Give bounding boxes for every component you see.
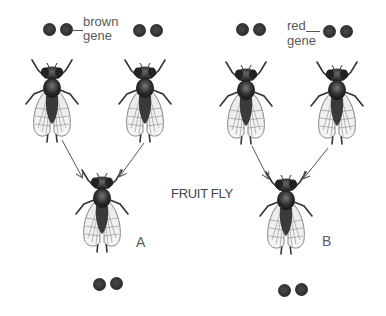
gene-dot bbox=[278, 284, 291, 297]
offspring-label-b: B bbox=[322, 234, 331, 248]
offspring-label-a: A bbox=[136, 235, 145, 249]
gene-dot bbox=[295, 283, 308, 296]
cross-arrows bbox=[0, 0, 386, 316]
gene-dot bbox=[110, 277, 123, 290]
diagram-title: FRUIT FLY bbox=[171, 187, 233, 201]
gene-dot bbox=[93, 278, 106, 291]
